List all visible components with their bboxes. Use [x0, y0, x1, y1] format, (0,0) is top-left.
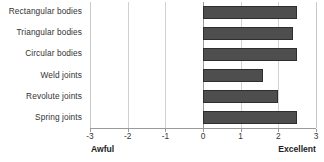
- category-label-weld-joints: Weld joints: [0, 64, 88, 85]
- bar-row: [90, 65, 316, 86]
- bar-row: [90, 44, 316, 65]
- tick-label-1: 1: [238, 132, 243, 140]
- tick-label-3: 3: [314, 132, 319, 140]
- tick-label-0: 0: [201, 132, 206, 140]
- bar-row: [90, 2, 316, 23]
- scale-low-anchor-label: Awful: [91, 145, 114, 154]
- category-label-spring-joints: Spring joints: [0, 107, 88, 128]
- tick-label--2: -2: [124, 132, 131, 140]
- bar-revolute-joints: [203, 90, 278, 103]
- category-axis: Rectangular bodies Triangular bodies Cir…: [0, 0, 88, 128]
- horizontal-bar-chart: Rectangular bodies Triangular bodies Cir…: [0, 0, 324, 162]
- tick-label--3: -3: [86, 132, 93, 140]
- plot-area: [90, 2, 316, 128]
- category-label-rectangular-bodies: Rectangular bodies: [0, 0, 88, 21]
- bar-row: [90, 23, 316, 44]
- tick-label-2: 2: [276, 132, 281, 140]
- tick-label--1: -1: [162, 132, 169, 140]
- scale-anchors: Awful Excellent: [90, 145, 316, 159]
- category-label-revolute-joints: Revolute joints: [0, 85, 88, 106]
- bar-series: [90, 2, 316, 128]
- bar-spring-joints: [203, 111, 297, 124]
- category-label-circular-bodies: Circular bodies: [0, 43, 88, 64]
- scale-high-anchor-label: Excellent: [278, 145, 316, 154]
- bar-weld-joints: [203, 69, 263, 82]
- gridline-3: [316, 2, 317, 128]
- bar-triangular-bodies: [203, 27, 293, 40]
- bar-row: [90, 86, 316, 107]
- value-axis: -3-2-10123: [90, 129, 316, 143]
- bar-circular-bodies: [203, 48, 297, 61]
- bar-row: [90, 107, 316, 128]
- category-label-triangular-bodies: Triangular bodies: [0, 21, 88, 42]
- bar-rectangular-bodies: [203, 6, 297, 19]
